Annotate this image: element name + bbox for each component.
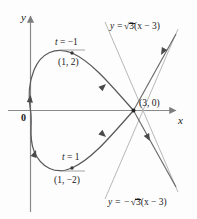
lower-asymptote-prefix: y = − bbox=[108, 197, 130, 207]
parametric-curve-figure: y x 0 t = −1 (1, 2) t = 1 (1, −2) (3, 0)… bbox=[0, 0, 197, 219]
lower-asymptote-radical: √3 bbox=[130, 198, 141, 208]
point-label-upper: (1, 2) bbox=[58, 58, 79, 68]
direction-arrow-loop-upper-right bbox=[98, 82, 108, 92]
t-label-lower-value: = 1 bbox=[67, 152, 79, 162]
y-axis-label: y bbox=[21, 12, 26, 23]
direction-arrow-ray-lower-right bbox=[144, 133, 153, 142]
direction-arrow-left-lower bbox=[31, 149, 39, 158]
x-axis-label: x bbox=[178, 115, 183, 126]
axis-group bbox=[8, 16, 176, 212]
upper-asymptote-label: y =√3(x − 3) bbox=[110, 22, 160, 32]
upper-asymptote-radical: √3 bbox=[123, 22, 134, 32]
point-label-lower: (1, −2) bbox=[54, 176, 80, 186]
upper-asymptote-suffix: (x − 3) bbox=[134, 21, 160, 31]
t-label-lower: t = 1 bbox=[62, 153, 80, 163]
upper-asymptote-line bbox=[105, 29, 178, 199]
t-label-upper: t = −1 bbox=[55, 38, 78, 48]
t-label-upper-value: = −1 bbox=[60, 37, 78, 47]
t-label-upper-var: t bbox=[55, 37, 58, 47]
point-label-node: (3, 0) bbox=[139, 99, 160, 109]
t-label-lower-var: t bbox=[62, 152, 65, 162]
lower-asymptote-suffix: (x − 3) bbox=[141, 197, 167, 207]
point-marker-node bbox=[132, 109, 136, 113]
point-marker-lower bbox=[70, 166, 73, 169]
point-marker-upper bbox=[70, 51, 73, 54]
upper-asymptote-prefix: y = bbox=[110, 21, 123, 31]
origin-label: 0 bbox=[21, 113, 26, 123]
radical-bar-upper bbox=[129, 23, 135, 24]
lower-asymptote-label: y = −√3(x − 3) bbox=[108, 198, 167, 208]
radical-bar-lower bbox=[135, 199, 141, 200]
direction-arrow-loop-lower-right bbox=[98, 130, 108, 140]
plot-canvas bbox=[0, 0, 197, 219]
direction-arrow-left-upper bbox=[27, 95, 34, 103]
ray-lower-right bbox=[134, 111, 177, 188]
